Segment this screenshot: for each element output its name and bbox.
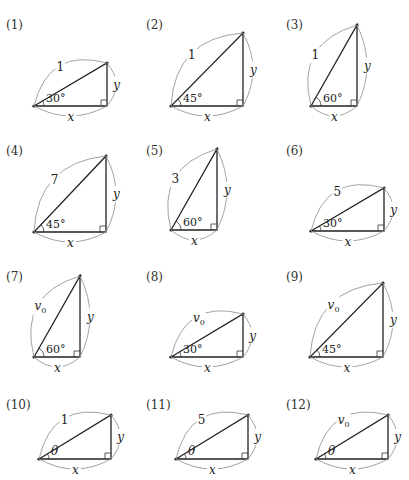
base-label: x bbox=[67, 236, 74, 250]
angle-label: 30° bbox=[46, 92, 66, 105]
right-triangle bbox=[171, 33, 243, 106]
height-label: y bbox=[389, 313, 397, 327]
height-label: y bbox=[112, 187, 120, 201]
problem-number: (12) bbox=[286, 398, 311, 412]
right-angle-mark bbox=[237, 100, 243, 106]
angle-label: 30° bbox=[323, 217, 343, 230]
angle-label: θ bbox=[51, 444, 59, 458]
angle-arc bbox=[178, 99, 181, 106]
height-label: y bbox=[363, 59, 371, 73]
angle-arc bbox=[316, 97, 321, 106]
base-label: x bbox=[191, 234, 198, 248]
angle-label: θ bbox=[188, 444, 196, 458]
right-triangle bbox=[34, 156, 106, 232]
triangle-problem-12: (12)θv0xy bbox=[286, 398, 401, 477]
problem-number: (1) bbox=[6, 18, 23, 32]
base-label: x bbox=[344, 361, 351, 375]
height-label: y bbox=[86, 310, 94, 324]
right-angle-mark bbox=[211, 224, 217, 230]
base-label: x bbox=[349, 463, 356, 477]
triangle-problem-1: (1)30°1xy bbox=[6, 18, 120, 124]
triangle-problem-3: (3)60°1xy bbox=[286, 18, 371, 124]
triangle-problem-10: (10)θ1xy bbox=[6, 398, 124, 477]
angle-arc bbox=[325, 454, 327, 459]
angle-label: 60° bbox=[183, 216, 203, 229]
triangle-figure: (1)30°1xy(2)45°1xy(3)60°1xy(4)45°7xy(5)6… bbox=[0, 0, 409, 480]
height-label: y bbox=[248, 329, 256, 343]
hypotenuse-label: 5 bbox=[334, 185, 342, 199]
angle-label: 60° bbox=[323, 92, 343, 105]
height-label: y bbox=[393, 430, 401, 444]
base-label: x bbox=[345, 235, 352, 249]
angle-label: 45° bbox=[183, 92, 203, 105]
right-angle-mark bbox=[237, 351, 243, 357]
hypotenuse-label: 1 bbox=[57, 60, 65, 74]
height-label: y bbox=[223, 183, 231, 197]
right-triangle bbox=[171, 314, 243, 357]
angle-arc bbox=[48, 454, 50, 459]
base-label: x bbox=[54, 361, 61, 375]
angle-label: 45° bbox=[322, 343, 342, 356]
hypotenuse-label: 3 bbox=[172, 172, 180, 186]
angle-label: 30° bbox=[183, 343, 203, 356]
right-angle-mark bbox=[105, 453, 111, 459]
right-triangle bbox=[316, 415, 388, 459]
base-label: x bbox=[68, 110, 75, 124]
angle-arc bbox=[320, 226, 321, 231]
angle-arc bbox=[41, 225, 44, 232]
height-label: y bbox=[249, 63, 257, 77]
angle-label: 45° bbox=[46, 218, 66, 231]
base-label: x bbox=[331, 110, 338, 124]
right-triangle bbox=[310, 283, 383, 357]
problem-number: (5) bbox=[146, 144, 163, 158]
problem-number: (3) bbox=[286, 18, 303, 32]
base-label: x bbox=[204, 361, 211, 375]
right-triangle bbox=[39, 415, 111, 459]
angle-arc bbox=[185, 454, 187, 459]
hypotenuse-label: 7 bbox=[51, 173, 59, 187]
triangle-problem-5: (5)60°3xy bbox=[146, 144, 231, 248]
triangle-problem-11: (11)θ5xy bbox=[146, 398, 261, 477]
problem-number: (8) bbox=[146, 270, 163, 284]
right-angle-mark bbox=[351, 100, 357, 106]
triangle-problem-7: (7)60°v0xy bbox=[6, 270, 94, 375]
problem-number: (7) bbox=[6, 270, 23, 284]
angle-arc bbox=[43, 101, 44, 106]
base-label: x bbox=[204, 110, 211, 124]
problem-number: (11) bbox=[146, 398, 171, 412]
height-label: y bbox=[116, 430, 124, 444]
problem-number: (2) bbox=[146, 18, 163, 32]
angle-arc bbox=[180, 352, 181, 357]
right-angle-mark bbox=[242, 453, 248, 459]
height-label: y bbox=[253, 430, 261, 444]
hypotenuse-label: 1 bbox=[188, 48, 196, 62]
problem-number: (6) bbox=[286, 144, 303, 158]
problem-number: (9) bbox=[286, 270, 303, 284]
angle-arc bbox=[39, 348, 44, 357]
hypotenuse-label: 1 bbox=[312, 48, 320, 62]
problem-number: (4) bbox=[6, 144, 23, 158]
problem-number: (10) bbox=[6, 398, 31, 412]
right-angle-mark bbox=[100, 226, 106, 232]
hypotenuse-label: 1 bbox=[61, 413, 69, 427]
triangle-problem-6: (6)30°5xy bbox=[286, 144, 397, 249]
height-label: y bbox=[389, 203, 397, 217]
right-angle-mark bbox=[74, 351, 80, 357]
triangle-problem-9: (9)45°v0xy bbox=[286, 270, 397, 375]
right-angle-mark bbox=[101, 100, 107, 106]
height-label: y bbox=[112, 78, 120, 92]
angle-arc bbox=[317, 350, 320, 357]
angle-label: 60° bbox=[46, 343, 66, 356]
base-label: x bbox=[209, 463, 216, 477]
triangle-problem-4: (4)45°7xy bbox=[6, 144, 120, 250]
right-angle-mark bbox=[382, 453, 388, 459]
right-angle-mark bbox=[378, 225, 384, 231]
angle-arc bbox=[176, 221, 181, 230]
hypotenuse-label: 5 bbox=[198, 413, 206, 427]
triangle-problem-8: (8)30°v0xy bbox=[146, 270, 256, 375]
right-angle-mark bbox=[377, 351, 383, 357]
angle-label: θ bbox=[328, 444, 336, 458]
right-triangle bbox=[34, 63, 107, 106]
triangle-problem-2: (2)45°1xy bbox=[146, 18, 257, 124]
base-label: x bbox=[72, 463, 79, 477]
